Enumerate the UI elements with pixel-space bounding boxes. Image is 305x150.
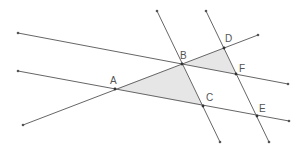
shaded-triangles — [115, 48, 236, 106]
arrow-end-icon — [268, 141, 271, 144]
point-label-F: F — [239, 63, 245, 74]
arrow-end-icon — [17, 32, 20, 35]
point-F — [235, 73, 238, 76]
point-B — [181, 63, 184, 66]
arrow-end-icon — [17, 70, 20, 73]
line-DFE — [206, 11, 269, 142]
geometry-diagram: ABCDFE — [0, 0, 305, 150]
arrow-end-icon — [22, 124, 25, 127]
point-D — [223, 47, 226, 50]
arrow-end-icon — [257, 34, 260, 37]
point-E — [256, 115, 259, 118]
arrow-end-icon — [205, 10, 208, 13]
point-label-C: C — [206, 92, 213, 103]
arrow-end-icon — [219, 141, 222, 144]
arrow-end-icon — [287, 83, 290, 86]
point-label-E: E — [259, 103, 266, 114]
point-label-D: D — [225, 33, 232, 44]
arrow-end-icon — [288, 120, 291, 123]
point-C — [202, 105, 205, 108]
point-label-B: B — [180, 50, 187, 61]
arrow-end-icon — [156, 10, 159, 13]
point-A — [114, 88, 117, 91]
point-label-A: A — [110, 75, 117, 86]
